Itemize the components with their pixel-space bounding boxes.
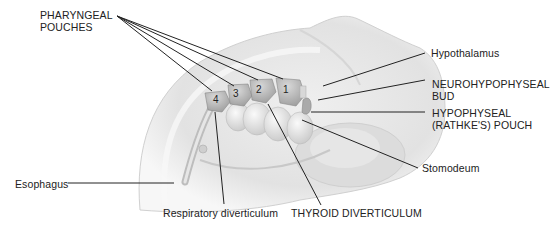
pouch-number-3: 3 — [233, 88, 239, 99]
label-respiratory-diverticulum: Respiratory diverticulum — [163, 207, 278, 219]
pouch-number-2: 2 — [256, 84, 262, 95]
label-hypophyseal-pouch: HYPOPHYSEAL (RATHKE'S) POUCH — [432, 107, 532, 131]
label-stomodeum: Stomodeum — [422, 162, 480, 174]
label-neurohypophyseal-bud: NEUROHYPOPHYSEAL BUD — [432, 78, 550, 102]
label-thyroid-diverticulum: THYROID DIVERTICULUM — [291, 207, 422, 219]
label-esophagus: Esophagus — [15, 178, 68, 190]
label-hypothalamus: Hypothalamus — [431, 47, 499, 59]
label-pharyngeal-pouches: PHARYNGEAL POUCHES — [40, 9, 113, 33]
pouch-number-1: 1 — [283, 84, 289, 95]
pouch-number-4: 4 — [213, 94, 219, 105]
